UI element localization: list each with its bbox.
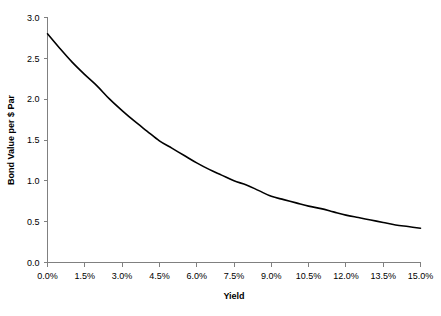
x-tick-label: 1.5% bbox=[75, 271, 96, 281]
x-tick-label: 15.0% bbox=[408, 271, 434, 281]
x-tick-label: 6.0% bbox=[186, 271, 207, 281]
axes-group bbox=[48, 18, 421, 263]
x-tick-label: 3.0% bbox=[112, 271, 133, 281]
chart-container: 0.00.51.01.52.02.53.0 0.0%1.5%3.0%4.5%6.… bbox=[0, 0, 441, 316]
y-tick-label: 2.5 bbox=[27, 54, 40, 64]
series-group bbox=[48, 34, 421, 228]
y-tick-label: 1.5 bbox=[27, 135, 40, 145]
x-tick-label: 9.0% bbox=[261, 271, 282, 281]
x-tick-label: 12.0% bbox=[333, 271, 359, 281]
x-tick-label: 10.5% bbox=[296, 271, 322, 281]
x-axis-ticks: 0.0%1.5%3.0%4.5%6.0%7.5%9.0%10.5%12.0%13… bbox=[37, 263, 433, 281]
data-series-line bbox=[48, 34, 421, 228]
x-tick-label: 7.5% bbox=[224, 271, 245, 281]
y-tick-label: 0.0 bbox=[27, 258, 40, 268]
y-axis-ticks: 0.00.51.01.52.02.53.0 bbox=[27, 13, 48, 268]
y-tick-label: 3.0 bbox=[27, 13, 40, 23]
y-axis-title: Bond Value per $ Par bbox=[6, 94, 16, 185]
x-tick-label: 0.0% bbox=[37, 271, 58, 281]
y-tick-label: 1.0 bbox=[27, 176, 40, 186]
x-axis-title: Yield bbox=[223, 291, 244, 301]
bond-value-vs-yield-chart: 0.00.51.01.52.02.53.0 0.0%1.5%3.0%4.5%6.… bbox=[0, 0, 441, 316]
y-tick-label: 2.0 bbox=[27, 94, 40, 104]
x-tick-label: 4.5% bbox=[149, 271, 170, 281]
x-tick-label: 13.5% bbox=[370, 271, 396, 281]
y-tick-label: 0.5 bbox=[27, 217, 40, 227]
